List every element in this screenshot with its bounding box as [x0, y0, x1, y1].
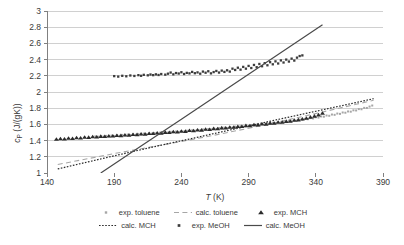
legend-marker-calc-mch-icon — [99, 221, 117, 230]
y-tick-label: 1 — [0, 169, 41, 178]
x-tick-label: 390 — [376, 178, 390, 187]
chart-figure: cP (J/(gK)) 11.21.41.61.822.22.42.62.83 … — [0, 0, 404, 245]
legend-item-calc-toluene[interactable]: calc. toluene — [174, 208, 238, 217]
plot-area — [47, 11, 383, 173]
series-calc-toluene — [58, 100, 374, 164]
series-calc-mch — [58, 99, 374, 169]
series-exp-meoh — [113, 54, 303, 78]
legend-label: calc. MCH — [121, 222, 156, 230]
legend-item-exp-meoh[interactable]: exp. MeOH — [170, 221, 230, 230]
legend-row: calc. MCHexp. MeOHcalc. MeOH — [0, 219, 404, 232]
x-tick-label: 340 — [309, 178, 323, 187]
x-axis-title: T (K) — [206, 192, 225, 202]
legend-label: exp. MeOH — [192, 222, 230, 230]
series-calc-meoh — [101, 25, 323, 173]
x-tick-label: 140 — [40, 178, 54, 187]
legend-item-calc-meoh[interactable]: calc. MeOH — [244, 221, 305, 230]
x-tick-label: 240 — [174, 178, 188, 187]
legend-marker-exp-mch-icon — [252, 208, 270, 217]
y-tick-label: 2.4 — [0, 55, 41, 64]
y-tick-label: 2.2 — [0, 72, 41, 81]
x-tick-label: 290 — [242, 178, 256, 187]
legend-label: exp. MCH — [274, 209, 307, 217]
x-tick-label: 190 — [107, 178, 121, 187]
y-tick-label: 2.6 — [0, 39, 41, 48]
chart-legend: exp. toluenecalc. tolueneexp. MCHcalc. M… — [0, 206, 404, 232]
legend-item-exp-mch[interactable]: exp. MCH — [252, 208, 307, 217]
legend-row: exp. toluenecalc. tolueneexp. MCH — [0, 206, 404, 219]
y-tick-label: 1.8 — [0, 104, 41, 113]
y-tick-label: 2 — [0, 88, 41, 97]
legend-item-calc-mch[interactable]: calc. MCH — [99, 221, 156, 230]
y-tick-label: 1.6 — [0, 120, 41, 129]
x-axis-title-unit: (K) — [211, 192, 225, 202]
data-series-layer — [47, 11, 383, 173]
legend-label: calc. toluene — [196, 209, 238, 217]
legend-marker-calc-meoh-icon — [244, 221, 262, 230]
legend-marker-exp-meoh-icon — [170, 221, 188, 230]
y-tick-label: 3 — [0, 7, 41, 16]
y-tick-label: 1.4 — [0, 136, 41, 145]
y-tick-label: 1.2 — [0, 153, 41, 162]
legend-marker-calc-toluene-icon — [174, 208, 192, 217]
legend-label: exp. toluene — [119, 209, 160, 217]
y-tick-label: 2.8 — [0, 23, 41, 32]
legend-marker-exp-toluene-icon — [97, 208, 115, 217]
legend-label: calc. MeOH — [266, 222, 305, 230]
legend-item-exp-toluene[interactable]: exp. toluene — [97, 208, 160, 217]
